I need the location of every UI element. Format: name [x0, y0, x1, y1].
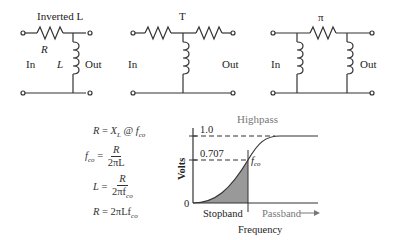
pi-circuit [271, 27, 374, 95]
pi-title: π [318, 11, 324, 23]
inverted-l-title: Inverted L [37, 10, 83, 22]
y-tick-1-0: 1.0 [200, 124, 213, 135]
t-in-label: In [128, 58, 138, 70]
y-tick-0: 0 [184, 198, 189, 209]
x-axis-label: Frequency [238, 224, 283, 235]
chart-title: Highpass [237, 113, 278, 125]
inverted-l-out-label: Out [85, 58, 102, 70]
formula-r-equals-2pilf: R = 2πLfco [93, 206, 138, 220]
pi-out-label: Out [360, 58, 377, 70]
diagram-canvas: Inverted L R L In Out T In Out π In Out … [0, 0, 393, 240]
pi-in-label: In [271, 58, 281, 70]
t-out-label: Out [222, 58, 239, 70]
y-axis-label: Volts [176, 158, 187, 180]
t-circuit [131, 27, 235, 95]
inverted-l-in-label: In [26, 58, 36, 70]
stopband-shading [193, 160, 248, 203]
cutoff-label: fco [251, 155, 261, 168]
formula-r-equals-xl: R = XL @ fco [93, 125, 145, 139]
formula-l: L = R2πfco [93, 173, 135, 202]
highpass-chart [189, 128, 320, 216]
passband-label: Passband [262, 208, 302, 219]
y-tick-0-707: 0.707 [200, 148, 224, 159]
resistor-label: R [40, 43, 48, 55]
t-title: T [179, 10, 186, 22]
stopband-label: Stopband [203, 208, 243, 219]
formula-fco: fco = R2πL [85, 144, 127, 169]
inductor-label: L [56, 58, 63, 70]
